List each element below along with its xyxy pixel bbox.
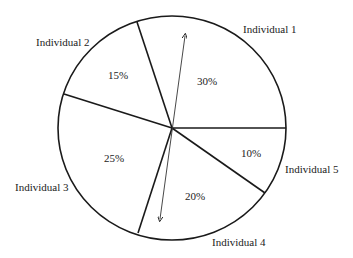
slice-value-individual-3: 25%: [104, 152, 124, 164]
slice-label-individual-5: Individual 5: [285, 163, 339, 175]
slice-value-individual-1: 30%: [197, 75, 217, 87]
slice-value-individual-2: 15%: [108, 69, 128, 81]
pie-chart: 30% 15% 25% 20% 10% Individual 1 Individ…: [0, 0, 353, 258]
slice-label-individual-4: Individual 4: [212, 236, 266, 248]
slice-label-individual-2: Individual 2: [36, 36, 89, 48]
slice-label-individual-3: Individual 3: [15, 181, 69, 193]
slice-value-individual-5: 10%: [241, 147, 261, 159]
slice-label-individual-1: Individual 1: [243, 23, 296, 35]
slice-value-individual-4: 20%: [185, 190, 205, 202]
